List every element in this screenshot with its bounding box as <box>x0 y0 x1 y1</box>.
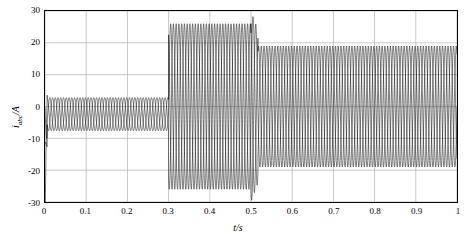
x-tick-label: 0.5 <box>245 206 256 216</box>
x-tick-label: 0.9 <box>411 206 422 216</box>
x-tick-label: 0.6 <box>287 206 298 216</box>
x-tick-label: 0.3 <box>163 206 174 216</box>
data-series-iabc <box>45 11 457 202</box>
y-axis-label-sub: abc <box>16 115 24 125</box>
y-axis-label: iabc/A <box>10 106 24 128</box>
y-tick-label: -10 <box>22 134 40 144</box>
x-tick-label: 0.8 <box>370 206 381 216</box>
figure-container: 00.10.20.30.40.50.60.70.80.91 -30-20-100… <box>0 0 476 244</box>
y-tick-label: 0 <box>22 102 40 112</box>
y-tick-label: 30 <box>22 5 40 15</box>
y-tick-label: 20 <box>22 37 40 47</box>
y-tick-label: 10 <box>22 69 40 79</box>
y-axis-label-main: i <box>10 125 21 128</box>
y-tick-label: -30 <box>22 198 40 208</box>
x-tick-label: 0.7 <box>328 206 339 216</box>
x-tick-label: 0 <box>42 206 47 216</box>
y-tick-label: -20 <box>22 166 40 176</box>
x-tick-label: 1 <box>456 206 461 216</box>
y-axis-label-unit: /A <box>10 106 21 115</box>
x-tick-label: 0.4 <box>204 206 215 216</box>
plot-area <box>44 10 458 203</box>
x-tick-label: 0.1 <box>80 206 91 216</box>
x-axis-label: t/s <box>0 222 476 233</box>
x-tick-label: 0.2 <box>121 206 132 216</box>
